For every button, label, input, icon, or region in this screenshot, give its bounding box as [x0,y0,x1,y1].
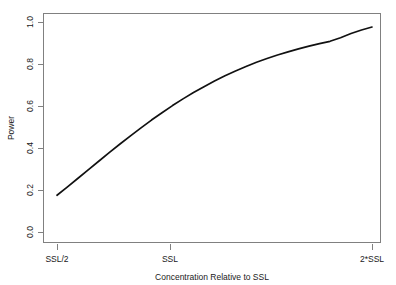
y-axis-title: Power [6,116,16,140]
y-tick-label-5: 1.0 [25,16,35,28]
y-axis-tick-marks [38,23,44,233]
x-axis-tick-marks [58,244,373,250]
chart-screenshot: 0.0 0.2 0.4 0.6 0.8 1.0 Power SSL/2 SSL … [0,0,396,285]
y-tick-label-1: 0.2 [25,184,35,196]
x-tick-label-1: SSL [162,254,178,264]
y-tick-label-2: 0.4 [25,142,35,154]
x-axis-title: Concentration Relative to SSL [155,272,269,282]
x-axis-tick-labels: SSL/2 SSL 2*SSL [45,254,384,264]
y-axis-tick-labels: 0.0 0.2 0.4 0.6 0.8 1.0 [25,16,35,238]
y-tick-label-4: 0.8 [25,58,35,70]
power-curve-chart: 0.0 0.2 0.4 0.6 0.8 1.0 Power SSL/2 SSL … [0,0,396,285]
x-tick-label-0: SSL/2 [45,254,68,264]
x-tick-label-2: 2*SSL [360,254,384,264]
plot-panel-background [43,13,381,243]
y-tick-label-3: 0.6 [25,100,35,112]
y-tick-label-0: 0.0 [25,226,35,238]
